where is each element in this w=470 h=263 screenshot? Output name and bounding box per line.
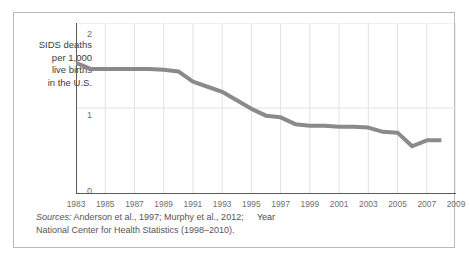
figure-container: SIDS deaths per 1,000 live births in the… [13,12,455,248]
line-chart-svg [76,23,456,198]
x-axis-tick-2003: 2003 [359,199,378,209]
data-series-line [76,63,441,146]
x-axis-tick-1987: 1987 [125,199,144,209]
plot-area [76,23,456,198]
x-axis-tick-1985: 1985 [96,199,115,209]
x-axis-tick-1995: 1995 [242,199,261,209]
x-axis-tick-1983: 1983 [67,199,86,209]
x-axis-tick-1989: 1989 [154,199,173,209]
horizontal-gridlines [76,23,456,108]
x-axis-tick-1993: 1993 [213,199,232,209]
sources-label: Sources: [36,212,72,222]
x-axis-tick-1997: 1997 [271,199,290,209]
x-axis-tick-2001: 2001 [330,199,349,209]
x-axis-tick-1991: 1991 [184,199,203,209]
sources-line-1: Sources: Anderson et al., 1997; Murphy e… [36,211,244,224]
x-axis-tick-1999: 1999 [301,199,320,209]
x-axis-tick-2005: 2005 [388,199,407,209]
x-axis-tick-2007: 2007 [417,199,436,209]
sources-line-2: National Center for Health Statistics (1… [36,224,244,237]
x-axis-tick-2009: 2009 [447,199,466,209]
sources-note: Sources: Anderson et al., 1997; Murphy e… [36,211,244,237]
sources-text-1: Anderson et al., 1997; Murphy et al., 20… [72,212,244,222]
